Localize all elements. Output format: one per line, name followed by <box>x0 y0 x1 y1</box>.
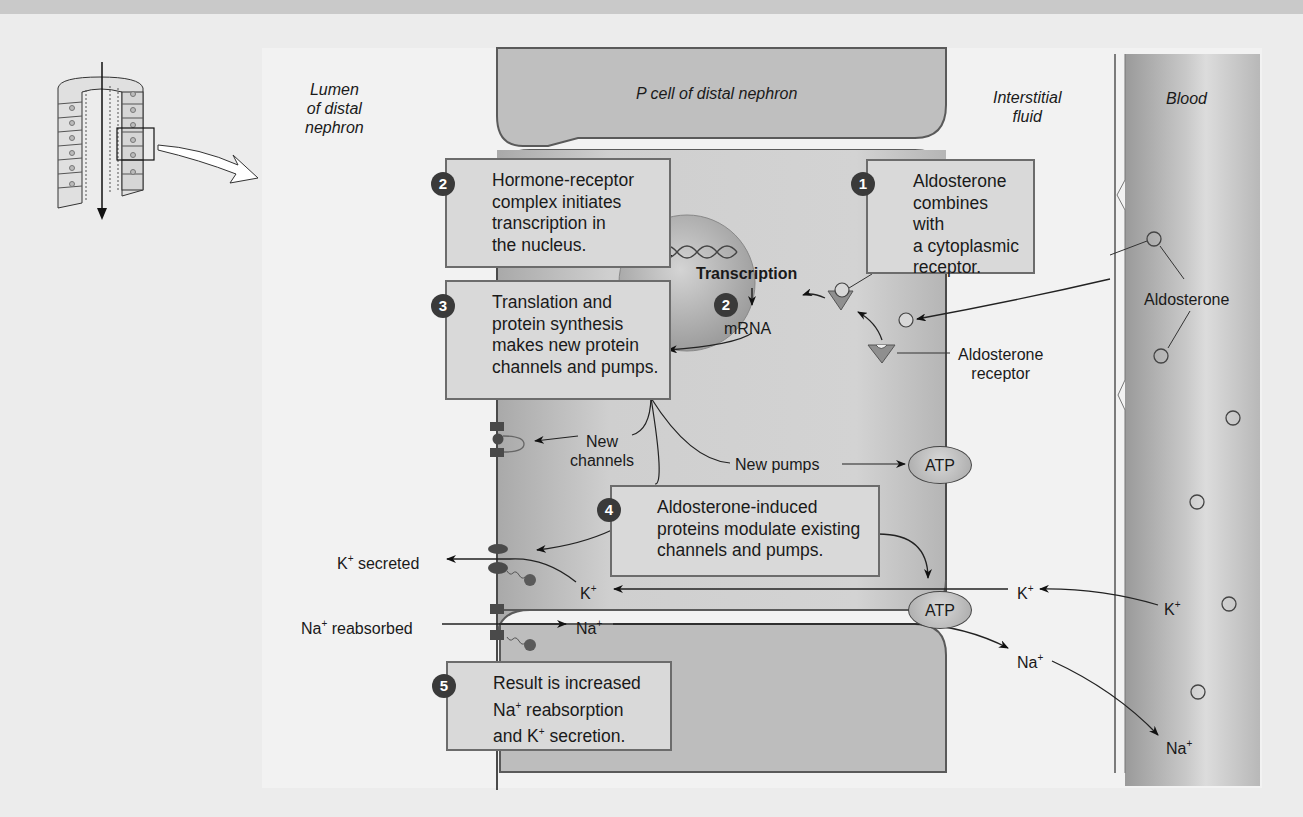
k-cell-label: K+ <box>580 579 597 603</box>
region-label-interstitial: Interstitial fluid <box>993 88 1061 126</box>
aldosterone-blood-label: Aldosterone <box>1144 290 1229 309</box>
k-interstitial-label: K+ <box>1017 579 1034 603</box>
step-1-box: Aldosterone combines with a cytoplasmic … <box>866 159 1035 274</box>
tubule-illustration <box>58 62 258 220</box>
region-label-lumen: Lumen of distal nephron <box>305 80 364 137</box>
nucleus-step-2-badge: 2 <box>714 293 738 317</box>
region-label-blood: Blood <box>1166 89 1207 108</box>
atp-pump-existing: ATP <box>908 591 972 629</box>
na-interstitial-label: Na+ <box>1017 648 1043 672</box>
na-blood-label: Na+ <box>1166 734 1192 758</box>
new-channels-label: New channels <box>570 432 634 470</box>
atp-pump-new: ATP <box>908 446 972 484</box>
new-pumps-label: New pumps <box>735 455 819 474</box>
na-cell-label: Na+ <box>576 614 602 638</box>
k-blood-label: K+ <box>1164 595 1181 619</box>
step-2-box: Hormone-receptor complex initiates trans… <box>445 158 671 268</box>
step-1-badge: 1 <box>851 172 875 196</box>
step-4-box: Aldosterone-induced proteins modulate ex… <box>610 485 880 577</box>
region-label-p-cell: P cell of distal nephron <box>636 84 797 103</box>
transcription-label: Transcription <box>696 265 797 283</box>
step-5-badge: 5 <box>432 674 456 698</box>
step-2-badge: 2 <box>431 172 455 196</box>
na-reabsorbed-label: Na+ reabsorbed <box>301 614 413 638</box>
mrna-label: mRNA <box>724 319 771 338</box>
aldosterone-receptor-label: Aldosterone receptor <box>958 345 1043 383</box>
step-5-box: Result is increased Na+ reabsorption and… <box>446 661 672 751</box>
k-secreted-label: K+ secreted <box>337 549 419 573</box>
step-4-badge: 4 <box>597 498 621 522</box>
step-3-box: Translation and protein synthesis makes … <box>445 280 671 400</box>
step-3-badge: 3 <box>431 294 455 318</box>
